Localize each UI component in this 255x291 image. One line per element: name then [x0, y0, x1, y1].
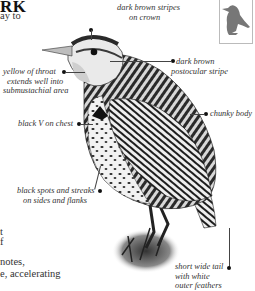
- annotation-crown: dark brown stripes on crown: [117, 3, 180, 22]
- annotation-postocular: dark brown postocular stripe: [176, 57, 228, 76]
- annotation-line: on sides and flanks: [17, 196, 95, 206]
- leader-dot: [98, 189, 102, 193]
- annotation-line: with white: [175, 272, 223, 282]
- leader-line: [65, 72, 85, 73]
- annotation-body: chunky body: [210, 109, 252, 119]
- annotation-line: dark brown stripes: [117, 3, 180, 13]
- annotation-line: extends well into: [3, 77, 69, 87]
- annotation-flanks: black spots and streaks on sides and fla…: [17, 186, 95, 205]
- annotation-line: postocular stripe: [171, 67, 228, 77]
- annotation-line: submustachial area: [3, 86, 69, 96]
- leader-line: [110, 61, 172, 62]
- field-guide-page: RK ay to t f notes, e, accelerating: [0, 0, 255, 291]
- annotation-line: on crown: [117, 13, 180, 23]
- leader-line: [80, 124, 93, 125]
- annotation-throat: yellow of throat extends well into submu…: [3, 67, 69, 96]
- annotation-line: short wide tail: [175, 262, 223, 272]
- annotation-line: yellow of throat: [3, 67, 69, 77]
- annotation-line: black spots and streaks: [17, 186, 95, 196]
- annotation-line: chunky body: [210, 109, 252, 119]
- leader-line: [229, 228, 230, 267]
- annotation-chest: black V on chest: [18, 119, 73, 129]
- annotation-line: dark brown: [176, 57, 228, 67]
- annotation-tail: short wide tail with white outer feather…: [175, 262, 223, 291]
- leader-line: [190, 114, 205, 115]
- meadowlark-illustration: [0, 0, 255, 291]
- leader-dot: [227, 266, 231, 270]
- annotation-line: outer feathers: [175, 281, 223, 291]
- leader-line: [91, 30, 92, 40]
- annotation-line: black V on chest: [18, 119, 73, 129]
